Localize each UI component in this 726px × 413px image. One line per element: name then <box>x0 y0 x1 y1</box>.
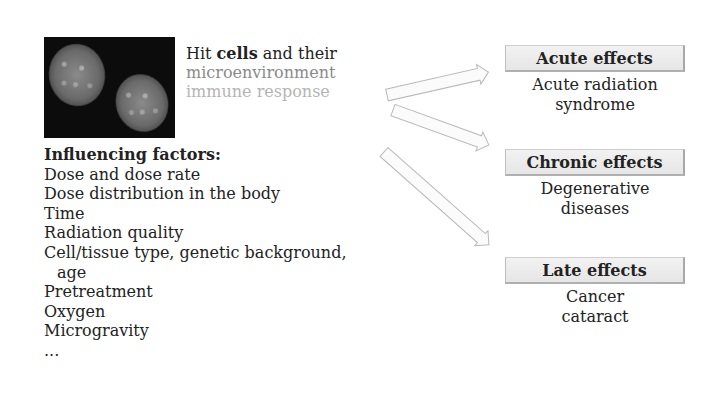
cell-nucleus <box>45 40 109 109</box>
acute-effects-box: Acute effects <box>505 45 685 72</box>
arrow-icon <box>390 101 493 155</box>
factor-item-ellipsis: ... <box>44 341 347 361</box>
factor-item: Time <box>44 204 347 224</box>
hit-suffix: and their <box>258 44 337 63</box>
late-effects-description: Cancer cataract <box>505 287 685 327</box>
arrow-icon <box>377 145 495 253</box>
description-line: cataract <box>505 307 685 327</box>
arrow-icon <box>385 62 491 104</box>
hit-cells-text: Hit cells and their microenvironment imm… <box>186 44 337 101</box>
late-effects-box: Late effects <box>505 257 685 284</box>
description-line: syndrome <box>505 95 685 115</box>
factor-item: Microgravity <box>44 321 347 341</box>
description-line: diseases <box>505 199 685 219</box>
hit-cells-line: Hit cells and their <box>186 44 337 63</box>
acute-effects-description: Acute radiation syndrome <box>505 75 685 115</box>
description-line: Degenerative <box>505 179 685 199</box>
factor-item: Radiation quality <box>44 223 347 243</box>
microenvironment-line: microenvironment <box>186 63 337 82</box>
immune-response-line: immune response <box>186 82 337 101</box>
influencing-factors-list: Influencing factors: Dose and dose rate … <box>44 145 347 361</box>
description-line: Cancer <box>505 287 685 307</box>
influencing-factors-title: Influencing factors: <box>44 145 347 165</box>
factor-item: Dose and dose rate <box>44 165 347 185</box>
factor-item: Oxygen <box>44 302 347 322</box>
chronic-effects-box: Chronic effects <box>505 149 685 176</box>
factor-item-continuation: age <box>44 263 347 283</box>
hit-prefix: Hit <box>186 44 217 63</box>
cell-nuclei-image <box>44 37 175 138</box>
cell-nucleus <box>108 67 175 138</box>
chronic-effects-description: Degenerative diseases <box>505 179 685 219</box>
factor-item: Cell/tissue type, genetic background, <box>44 243 347 263</box>
description-line: Acute radiation <box>505 75 685 95</box>
hit-cells-bold: cells <box>217 44 258 63</box>
factor-item: Pretreatment <box>44 282 347 302</box>
factor-item: Dose distribution in the body <box>44 184 347 204</box>
